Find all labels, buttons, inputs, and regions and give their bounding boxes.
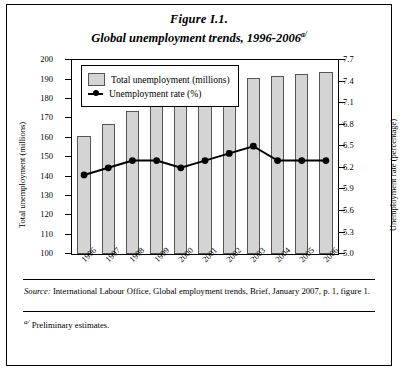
rate-point-2006 <box>323 157 330 164</box>
divider-bottom <box>23 311 375 312</box>
y-right-tick-6.2: 6.2 <box>343 162 365 172</box>
rate-point-2001 <box>202 157 209 164</box>
source-note: Source: International Labour Office, Glo… <box>24 286 377 297</box>
legend-item-line: Unemployment rate (%) <box>88 88 230 99</box>
source-text: International Labour Office, Global empl… <box>51 286 370 296</box>
chart-legend: Total unemployment (millions) Unemployme… <box>81 65 239 107</box>
y-left-tickmark <box>65 137 71 138</box>
rate-point-1996 <box>81 172 88 179</box>
y-right-tickmark <box>339 210 345 211</box>
y-left-tick-100: 100 <box>31 248 53 258</box>
y-left-tickmark <box>65 214 71 215</box>
y-left-tick-180: 180 <box>31 93 53 103</box>
y-axis-left-title: Total unemployment (millions) <box>17 122 27 228</box>
y-left-tick-160: 160 <box>31 132 53 142</box>
legend-item-bars: Total unemployment (millions) <box>88 73 230 86</box>
y-left-tick-170: 170 <box>31 112 53 122</box>
divider-top <box>23 279 375 280</box>
y-right-tick-5.9: 5.9 <box>343 183 365 193</box>
figure-label: Figure I.1. <box>7 12 391 27</box>
y-right-tick-5.0: 5.0 <box>343 248 365 258</box>
rate-point-2005 <box>298 157 305 164</box>
figure-title-block: Figure I.1. Global unemployment trends, … <box>7 5 391 46</box>
rate-point-1999 <box>153 157 160 164</box>
legend-bar-swatch <box>88 73 105 86</box>
y-left-tick-140: 140 <box>31 171 53 181</box>
y-left-tick-110: 110 <box>31 229 53 239</box>
y-left-tick-120: 120 <box>31 209 53 219</box>
footnote-text: Preliminary estimates. <box>29 320 109 330</box>
rate-point-2002 <box>226 150 233 157</box>
y-left-tickmark <box>65 195 71 196</box>
rate-point-1998 <box>129 157 136 164</box>
y-left-tickmark <box>65 98 71 99</box>
y-right-tick-7.4: 7.4 <box>343 76 365 86</box>
legend-bar-label: Total unemployment (millions) <box>111 75 230 85</box>
y-axis-right-title: Unemployment rate (percentage) <box>388 119 398 231</box>
y-right-tickmark <box>339 102 345 103</box>
y-right-tickmark <box>339 145 345 146</box>
legend-line-label: Unemployment rate (%) <box>109 89 201 99</box>
y-left-tick-150: 150 <box>31 151 53 161</box>
y-right-tick-6.8: 6.8 <box>343 119 365 129</box>
y-right-tick-6.5: 6.5 <box>343 140 365 150</box>
y-right-tickmark <box>339 253 345 254</box>
y-right-tickmark <box>339 81 345 82</box>
y-right-tickmark <box>339 232 345 233</box>
rate-point-1997 <box>105 165 112 172</box>
y-right-tickmark <box>339 59 345 60</box>
legend-line-swatch <box>88 88 103 99</box>
rate-point-2004 <box>274 157 281 164</box>
y-left-tickmark <box>65 79 71 80</box>
footnote: a/ Preliminary estimates. <box>24 318 109 330</box>
y-right-tick-7.1: 7.1 <box>343 97 365 107</box>
y-left-tickmark <box>65 234 71 235</box>
y-right-tickmark <box>339 167 345 168</box>
y-left-tickmark <box>65 156 71 157</box>
figure-title-text: Global unemployment trends, 1996-2006 <box>91 31 301 45</box>
y-right-tick-5.3: 5.3 <box>343 227 365 237</box>
figure-panel: Figure I.1. Global unemployment trends, … <box>6 4 392 366</box>
y-right-tick-5.6: 5.6 <box>343 205 365 215</box>
y-left-tick-130: 130 <box>31 190 53 200</box>
y-left-tickmark <box>65 117 71 118</box>
y-right-tickmark <box>339 188 345 189</box>
y-left-tick-190: 190 <box>31 74 53 84</box>
source-prefix: Source: <box>24 286 51 296</box>
y-right-tick-7.7: 7.7 <box>343 54 365 64</box>
y-left-tick-200: 200 <box>31 54 53 64</box>
rate-point-2000 <box>177 165 184 172</box>
rate-point-2003 <box>250 143 257 150</box>
chart-area: Total unemployment (millions) Unemployme… <box>15 53 383 297</box>
y-left-tickmark <box>65 176 71 177</box>
figure-title: Global unemployment trends, 1996-2006a/ <box>7 30 391 46</box>
figure-title-superscript: a/ <box>301 30 307 39</box>
y-left-tickmark <box>65 253 71 254</box>
y-right-tickmark <box>339 124 345 125</box>
y-left-tickmark <box>65 59 71 60</box>
